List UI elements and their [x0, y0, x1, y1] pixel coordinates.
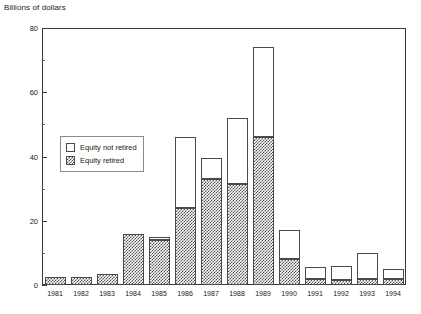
chart-axis-title: Billions of dollars — [4, 3, 66, 12]
y-axis-minor-tick — [42, 189, 45, 190]
bar-segment-equity-not-retired[interactable] — [149, 237, 170, 240]
x-axis-tick-label: 1990 — [281, 290, 297, 297]
bar-group[interactable] — [201, 158, 222, 285]
bar-group[interactable] — [279, 230, 300, 285]
x-axis-tick-label: 1993 — [359, 290, 375, 297]
x-axis-tick-label: 1983 — [99, 290, 115, 297]
bar-segment-equity-retired[interactable] — [253, 137, 274, 285]
bar-group[interactable] — [45, 277, 66, 285]
x-axis-tick-labels: 1981198219831984198519861987198819891990… — [42, 290, 406, 304]
bar-segment-equity-not-retired[interactable] — [279, 230, 300, 259]
bar-segment-equity-not-retired[interactable] — [175, 137, 196, 208]
legend-item-equity-not-retired: Equity not retired — [66, 141, 137, 154]
bar-segment-equity-not-retired[interactable] — [253, 47, 274, 137]
bar-segment-equity-retired[interactable] — [123, 234, 144, 285]
bar-segment-equity-retired[interactable] — [201, 179, 222, 285]
x-axis-tick-label: 1991 — [307, 290, 323, 297]
bar-segment-equity-not-retired[interactable] — [227, 118, 248, 184]
bar-group[interactable] — [97, 274, 118, 285]
y-axis-tick-label: 0 — [34, 281, 38, 290]
bar-segment-equity-not-retired[interactable] — [383, 269, 404, 279]
legend-item-equity-retired: Equity retired — [66, 154, 137, 167]
y-axis-minor-tick — [42, 124, 45, 125]
x-axis-tick-label: 1992 — [333, 290, 349, 297]
x-axis-tick-label: 1988 — [229, 290, 245, 297]
bar-segment-equity-retired[interactable] — [227, 184, 248, 285]
bar-group[interactable] — [331, 266, 352, 285]
bar-group[interactable] — [227, 118, 248, 285]
bar-segment-equity-not-retired[interactable] — [305, 267, 326, 278]
y-axis-major-tick — [42, 28, 47, 29]
bar-segment-equity-not-retired[interactable] — [357, 253, 378, 279]
y-axis-tick-label: 60 — [30, 88, 38, 97]
bar-group[interactable] — [383, 269, 404, 285]
y-axis-major-tick — [42, 221, 47, 222]
x-axis-tick-label: 1994 — [385, 290, 401, 297]
x-axis-tick-label: 1989 — [255, 290, 271, 297]
bar-group[interactable] — [149, 237, 170, 285]
y-axis-tick-label: 80 — [30, 24, 38, 33]
chart-legend: Equity not retired Equity retired — [60, 136, 144, 172]
bar-segment-equity-retired[interactable] — [45, 277, 66, 285]
bar-group[interactable] — [253, 47, 274, 285]
x-axis-tick-label: 1985 — [151, 290, 167, 297]
legend-label-equity-retired: Equity retired — [80, 156, 124, 165]
bar-group[interactable] — [175, 137, 196, 285]
bar-segment-equity-retired[interactable] — [97, 274, 118, 285]
bar-group[interactable] — [357, 253, 378, 285]
bar-segment-equity-retired[interactable] — [305, 279, 326, 285]
chart-figure: Billions of dollars 020406080 1981198219… — [0, 0, 421, 314]
y-axis-tick-label: 20 — [30, 216, 38, 225]
bar-group[interactable] — [123, 234, 144, 285]
x-axis-tick-label: 1981 — [47, 290, 63, 297]
y-axis-major-tick — [42, 157, 47, 158]
bar-segment-equity-not-retired[interactable] — [331, 266, 352, 280]
legend-swatch-hatched — [66, 156, 75, 165]
x-axis-tick-label: 1984 — [125, 290, 141, 297]
y-axis-tick-label: 40 — [30, 152, 38, 161]
x-axis-tick-label: 1986 — [177, 290, 193, 297]
y-axis-major-tick — [42, 92, 47, 93]
y-axis-minor-tick — [42, 253, 45, 254]
bar-group[interactable] — [305, 267, 326, 285]
bar-segment-equity-retired[interactable] — [175, 208, 196, 285]
bar-segment-equity-not-retired[interactable] — [201, 158, 222, 179]
bar-group[interactable] — [71, 277, 92, 285]
bar-segment-equity-retired[interactable] — [383, 279, 404, 285]
y-axis-tick-labels: 020406080 — [0, 28, 38, 285]
bar-segment-equity-retired[interactable] — [71, 277, 92, 285]
bar-segment-equity-retired[interactable] — [149, 240, 170, 285]
legend-swatch-white — [66, 143, 75, 152]
bar-segment-equity-retired[interactable] — [357, 279, 378, 285]
y-axis-major-tick — [42, 285, 47, 286]
legend-label-equity-not-retired: Equity not retired — [80, 143, 137, 152]
x-axis-tick-label: 1987 — [203, 290, 219, 297]
x-axis-tick-label: 1982 — [73, 290, 89, 297]
bar-segment-equity-retired[interactable] — [279, 259, 300, 285]
bar-segment-equity-retired[interactable] — [331, 280, 352, 285]
y-axis-minor-tick — [42, 60, 45, 61]
